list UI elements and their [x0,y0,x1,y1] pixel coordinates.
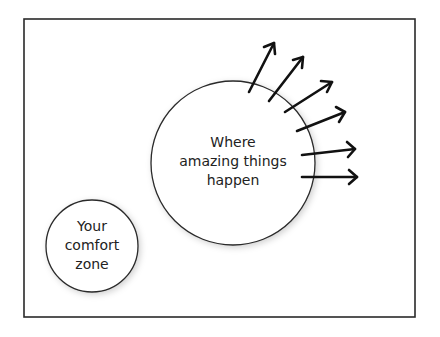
arrow-icon [297,107,345,131]
big-circle-line: Where [173,133,293,152]
small-circle-line: zone [52,255,132,274]
big-circle-label: Where amazing things happen [173,133,293,190]
big-circle-line: amazing things [173,152,293,171]
small-circle-line: Your [52,217,132,236]
arrow-icon [285,81,332,112]
small-circle-label: Your comfort zone [52,217,132,274]
arrow-icon [249,43,275,92]
small-circle-line: comfort [52,236,132,255]
arrow-icon [269,57,303,101]
diagram-canvas: Where amazing things happen Your comfort… [0,0,440,337]
big-circle-line: happen [173,171,293,190]
